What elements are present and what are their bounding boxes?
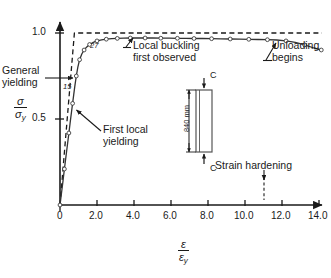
local-buckling-line2: first observed — [133, 51, 196, 63]
general-yielding-line1: General — [2, 64, 39, 76]
x-tick-label-4: 4.0 — [126, 210, 140, 221]
x-tick-label-8: 8.0 — [200, 210, 214, 221]
marker-27-annotation: 27 — [90, 42, 98, 50]
unloading-begins-annotation: Unloading begins — [272, 40, 319, 64]
general-yielding-annotation: General yielding — [2, 65, 39, 89]
specimen-load-label-top: C — [210, 70, 217, 80]
strain-hardening-annotation: Strain hardening — [215, 160, 292, 172]
local-buckling-line1: Local buckling — [133, 39, 200, 51]
general-yielding-line2: yielding — [2, 76, 38, 88]
x-axis-denominator: εy — [178, 251, 189, 263]
x-tick-label-2: 2.0 — [89, 210, 103, 221]
marker-15-annotation: 15 — [63, 83, 71, 91]
x-axis-title: ε εy — [178, 238, 189, 263]
first-local-yielding-annotation: First local yielding — [103, 124, 148, 148]
x-tick-label-0: 0 — [57, 210, 63, 221]
x-axis-denominator-subscript: y — [184, 256, 188, 265]
x-tick-label-6: 6.0 — [163, 210, 177, 221]
specimen-dimension-label: 840 mm — [182, 99, 191, 139]
specimen-load-label-bottom: C — [210, 163, 217, 173]
y-axis-denominator-subscript: y — [22, 113, 26, 122]
x-axis-numerator: ε — [178, 238, 189, 251]
y-tick-label-05: 0.5 — [32, 112, 46, 123]
y-tick-label-1: 1.0 — [32, 26, 46, 37]
stress-strain-chart: 1.0 0.5 0 2.0 4.0 6.0 8.0 10.0 12.0 14.0… — [0, 0, 331, 278]
y-axis-title: σ σy — [14, 95, 27, 120]
y-axis-numerator: σ — [14, 95, 27, 108]
unloading-begins-line2: begins — [272, 51, 303, 63]
unloading-begins-line1: Unloading — [272, 39, 319, 51]
x-tick-label-10: 10.0 — [234, 210, 253, 221]
first-local-yielding-line1: First local — [103, 123, 148, 135]
specimen-column — [196, 90, 212, 152]
x-tick-label-12: 12.0 — [271, 210, 290, 221]
y-axis-denominator: σy — [14, 108, 27, 120]
first-local-yielding-line2: yielding — [103, 135, 139, 147]
local-buckling-annotation: Local buckling first observed — [133, 40, 200, 64]
x-tick-label-14: 14.0 — [308, 210, 327, 221]
first-local-yielding-leader — [77, 110, 102, 131]
